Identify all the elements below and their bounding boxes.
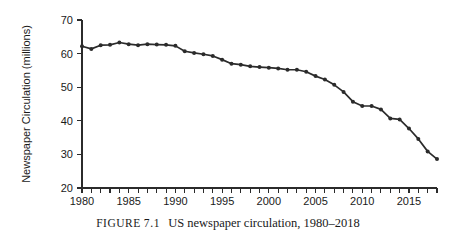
data-point — [304, 70, 308, 74]
y-tick-label: 70 — [61, 14, 73, 26]
data-point — [342, 90, 346, 94]
data-point — [164, 43, 168, 47]
data-point — [407, 127, 411, 131]
figure-caption-text: US newspaper circulation, 1980–2018 — [168, 216, 360, 230]
x-tick-label: 2015 — [397, 195, 421, 207]
x-tick-label: 1990 — [163, 195, 187, 207]
line-chart: 203040506070 198019851990199520002005201… — [0, 0, 456, 212]
data-point — [388, 116, 392, 120]
data-point — [89, 47, 93, 51]
data-point — [229, 62, 233, 66]
data-point — [155, 43, 159, 47]
figure-label: FIGURE — [96, 217, 141, 229]
data-point — [276, 66, 280, 70]
y-tick-label: 50 — [61, 81, 73, 93]
data-point — [435, 157, 439, 161]
data-point — [127, 42, 131, 46]
x-tick-label: 2010 — [350, 195, 374, 207]
data-point — [108, 43, 112, 47]
figure-number: 7.1 — [144, 217, 160, 229]
figure-container: 203040506070 198019851990199520002005201… — [0, 0, 456, 250]
data-point — [239, 63, 243, 67]
data-point — [183, 49, 187, 53]
data-point — [267, 66, 271, 70]
data-point — [360, 104, 364, 108]
data-point — [117, 41, 121, 45]
data-point — [286, 68, 290, 72]
data-point — [211, 54, 215, 58]
x-axis: 19801985199019952000200520102015 — [70, 188, 437, 207]
data-point — [145, 42, 149, 46]
y-axis-title-text: Newspaper Circulation (millions) — [20, 25, 32, 183]
data-point — [80, 44, 84, 48]
y-axis: 203040506070 — [61, 14, 82, 194]
x-tick-label: 1995 — [210, 195, 234, 207]
data-point — [173, 44, 177, 48]
y-tick-label: 60 — [61, 48, 73, 60]
x-tick-label: 2005 — [303, 195, 327, 207]
data-point — [351, 100, 355, 104]
data-point — [220, 58, 224, 62]
y-tick-label: 20 — [61, 182, 73, 194]
data-point — [370, 104, 374, 108]
data-point — [426, 149, 430, 153]
data-point — [323, 77, 327, 81]
data-point — [416, 137, 420, 141]
data-point — [248, 64, 252, 68]
data-point — [295, 68, 299, 72]
x-tick-label: 1985 — [116, 195, 140, 207]
y-axis-title: Newspaper Circulation (millions) — [20, 25, 32, 183]
data-point — [398, 117, 402, 121]
data-point — [314, 74, 318, 78]
x-tick-label: 1980 — [70, 195, 94, 207]
figure-caption: FIGURE 7.1 US newspaper circulation, 198… — [0, 216, 456, 231]
y-tick-label: 30 — [61, 148, 73, 160]
y-tick-label: 40 — [61, 115, 73, 127]
series-newspaper-circulation — [80, 41, 439, 162]
data-point — [201, 52, 205, 56]
data-point — [99, 43, 103, 47]
data-point — [258, 65, 262, 69]
data-point — [192, 51, 196, 55]
data-point — [379, 107, 383, 111]
x-tick-label: 2000 — [257, 195, 281, 207]
chart-area: 203040506070 198019851990199520002005201… — [0, 0, 456, 212]
data-point — [136, 43, 140, 47]
data-point — [332, 83, 336, 87]
